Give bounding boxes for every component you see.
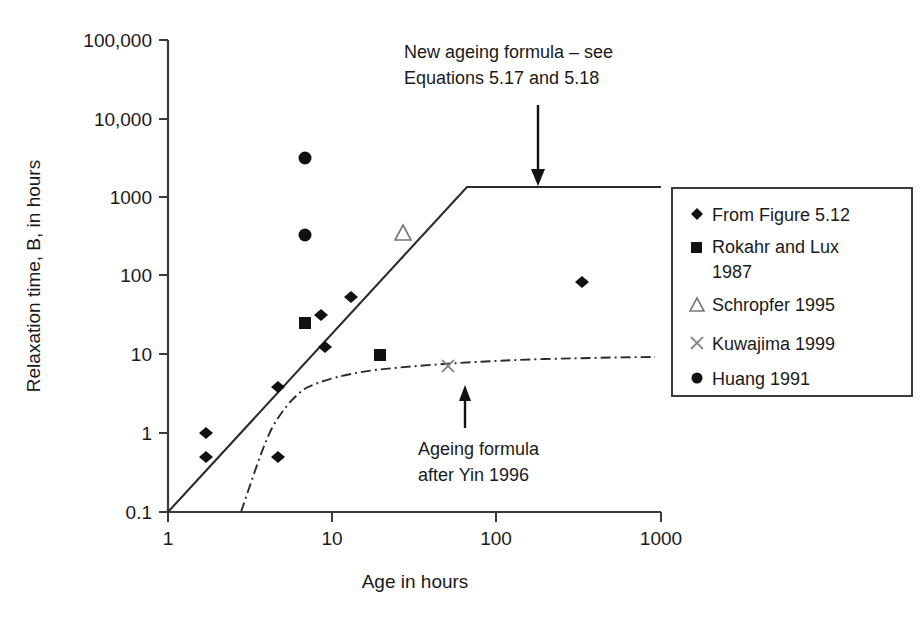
data-point-diamond bbox=[199, 427, 213, 439]
y-tick-label-100: 100 bbox=[120, 265, 152, 286]
legend-square-icon bbox=[691, 242, 702, 253]
curve-yin-1996 bbox=[241, 357, 655, 512]
data-point-diamond bbox=[575, 276, 589, 288]
data-point-circle bbox=[299, 229, 312, 242]
x-tick-label-10: 10 bbox=[321, 528, 342, 549]
data-point-x bbox=[442, 360, 454, 372]
annotation-arrowhead-down bbox=[531, 169, 545, 186]
series-huang-1991 bbox=[299, 152, 312, 242]
y-tick-label-1000: 1000 bbox=[110, 187, 152, 208]
legend-label-rokahr-year: 1987 bbox=[712, 262, 752, 282]
annotation-new-ageing-line2: Equations 5.17 and 5.18 bbox=[404, 68, 599, 88]
x-tick-label-100: 100 bbox=[480, 528, 512, 549]
x-tick-label-1: 1 bbox=[163, 528, 174, 549]
data-point-diamond bbox=[271, 381, 285, 393]
legend-item-from-figure-512[interactable]: From Figure 5.12 bbox=[691, 205, 850, 225]
annotation-yin-line2: after Yin 1996 bbox=[418, 465, 529, 485]
annotation-new-ageing-formula: New ageing formula – see Equations 5.17 … bbox=[404, 42, 613, 186]
y-axis-title: Relaxation time, B, in hours bbox=[23, 160, 44, 392]
legend-label-kuwajima-1999: Kuwajima 1999 bbox=[712, 334, 835, 354]
x-axis-tick-labels: 1 10 100 1000 bbox=[163, 528, 682, 549]
legend-label-huang-1991: Huang 1991 bbox=[712, 369, 810, 389]
log-log-scatter-chart: 100,000 10,000 1000 100 10 1 0.1 1 10 10… bbox=[0, 0, 924, 617]
data-point-diamond bbox=[314, 309, 328, 321]
legend-label-schropfer-1995: Schropfer 1995 bbox=[712, 295, 835, 315]
y-tick-label-100000: 100,000 bbox=[83, 30, 152, 51]
annotation-yin-line1: Ageing formula bbox=[418, 439, 540, 459]
data-point-diamond bbox=[318, 341, 332, 353]
data-point-circle bbox=[299, 152, 312, 165]
data-point-triangle bbox=[395, 225, 411, 240]
curve-new-ageing-formula bbox=[168, 187, 661, 512]
annotation-new-ageing-line1: New ageing formula – see bbox=[404, 42, 613, 62]
series-schropfer-1995 bbox=[395, 225, 411, 240]
series-kuwajima-1999 bbox=[442, 360, 454, 372]
data-point-diamond bbox=[199, 451, 213, 463]
y-axis-ticks bbox=[159, 40, 168, 512]
legend-label-rokahr-and-lux: Rokahr and Lux bbox=[712, 237, 839, 257]
data-point-square bbox=[374, 349, 386, 361]
data-point-square bbox=[299, 317, 311, 329]
y-tick-label-1: 1 bbox=[141, 423, 152, 444]
legend: From Figure 5.12 Rokahr and Lux 1987 Sch… bbox=[672, 188, 912, 396]
legend-circle-icon bbox=[692, 373, 703, 384]
series-markers bbox=[199, 152, 589, 464]
series-from-figure-512 bbox=[199, 276, 589, 463]
legend-label-from-figure-512: From Figure 5.12 bbox=[712, 205, 850, 225]
y-tick-label-10: 10 bbox=[131, 344, 152, 365]
legend-item-schropfer-1995[interactable]: Schropfer 1995 bbox=[690, 295, 835, 315]
y-axis-tick-labels: 100,000 10,000 1000 100 10 1 0.1 bbox=[83, 30, 152, 523]
x-tick-label-1000: 1000 bbox=[640, 528, 682, 549]
x-axis-ticks bbox=[168, 512, 661, 522]
annotation-yin-formula: Ageing formula after Yin 1996 bbox=[418, 385, 540, 485]
y-tick-label-0.1: 0.1 bbox=[126, 502, 152, 523]
x-axis-title: Age in hours bbox=[362, 571, 469, 592]
data-point-diamond bbox=[271, 451, 285, 463]
legend-item-kuwajima-1999[interactable]: Kuwajima 1999 bbox=[691, 334, 835, 354]
chart-figure: 100,000 10,000 1000 100 10 1 0.1 1 10 10… bbox=[0, 0, 924, 617]
data-point-diamond bbox=[344, 291, 358, 303]
y-tick-label-10000: 10,000 bbox=[94, 109, 152, 130]
